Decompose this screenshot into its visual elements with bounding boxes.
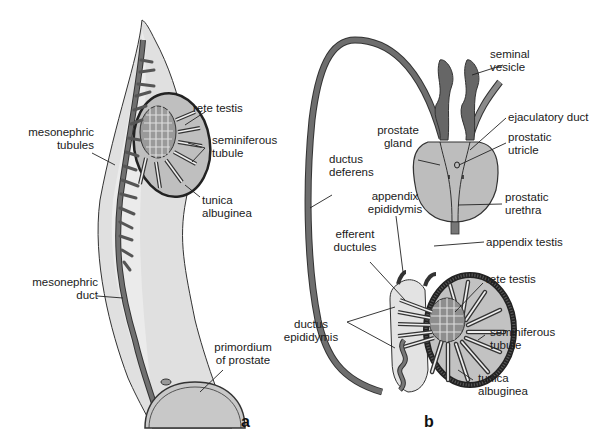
label-seminiferous-tubule-a-line1: seminiferous [212, 134, 277, 147]
label-seminiferous-tubule-a-line2: tubule [212, 147, 243, 160]
label-prostatic-utricle-line2: utricle [508, 144, 539, 157]
label-mesonephric-duct-line1: mesonephric [20, 276, 98, 289]
label-ductus-epididymis-line1: ductus [278, 318, 344, 331]
label-primordium-line2: of prostate [206, 354, 280, 367]
label-seminal-vesicle-line1: seminal [490, 48, 530, 61]
label-prostate-gland-line1: prostate [368, 124, 428, 137]
label-ductus-epididymis-line2: epididymis [278, 331, 344, 344]
label-ductus-deferens-line2: deferens [329, 166, 374, 179]
label-mesonephric-duct-line2: duct [20, 289, 98, 302]
label-seminiferous-tubule-b-line2: tubule [490, 339, 521, 352]
label-prostate-gland-line2: gland [368, 137, 428, 150]
label-prostatic-utricle-line1: prostatic [508, 131, 551, 144]
label-tunica-albuginea-a-line2: albuginea [202, 207, 252, 220]
label-tunica-albuginea-b-line2: albuginea [478, 385, 528, 398]
label-mesonephric-tubules-line2: tubules [20, 139, 94, 152]
panel-a-letter: a [241, 413, 250, 431]
label-rete-testis-a: rete testis [193, 102, 243, 115]
label-prostatic-urethra-line2: urethra [505, 204, 541, 217]
label-seminiferous-tubule-b-line1: seminiferous [490, 326, 555, 339]
label-seminal-vesicle-line2: vesicle [490, 61, 525, 74]
label-prostatic-urethra-line1: prostatic [505, 191, 548, 204]
label-appendix-epididymis-line1: appendix [360, 190, 430, 203]
label-tunica-albuginea-a-line1: tunica [202, 194, 233, 207]
label-mesonephric-tubules-line1: mesonephric [20, 126, 94, 139]
label-efferent-ductules-line1: efferent [326, 228, 384, 241]
label-efferent-ductules-line2: ductules [326, 241, 384, 254]
label-ductus-deferens-line1: ductus [329, 153, 363, 166]
label-primordium-line1: primordium [206, 341, 280, 354]
label-tunica-albuginea-b-line1: tunica [478, 372, 509, 385]
label-ejaculatory-duct: ejaculatory duct [508, 111, 589, 124]
label-appendix-epididymis-line2: epididymis [360, 203, 430, 216]
label-rete-testis-b: rete testis [486, 273, 536, 286]
panel-b-letter: b [424, 413, 434, 431]
label-appendix-testis: appendix testis [486, 236, 563, 249]
